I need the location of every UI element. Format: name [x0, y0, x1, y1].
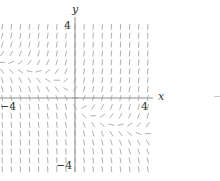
slope-segment: [129, 95, 130, 101]
slope-segment: [138, 59, 139, 65]
slope-segment: [29, 113, 30, 119]
slope-segment: [11, 131, 12, 137]
slope-segment: [111, 148, 112, 154]
slope-segment: [101, 104, 104, 109]
slope-segment: [82, 105, 87, 108]
slope-segment: [38, 131, 39, 137]
slope-segment: [146, 140, 149, 145]
slope-segment: [108, 124, 114, 126]
slope-segment: [129, 68, 130, 74]
slope-segment: [127, 132, 132, 136]
slope-segment: [102, 86, 103, 92]
slope-segment: [65, 59, 67, 65]
slope-segment: [47, 131, 48, 137]
slope-segment: [38, 33, 39, 39]
slope-segment: [138, 166, 139, 172]
slope-segment: [63, 88, 68, 91]
slope-segment: [29, 42, 30, 48]
slope-segment: [147, 113, 149, 119]
slope-segment: [129, 86, 130, 92]
slope-segment: [147, 166, 148, 172]
slope-segment: [20, 24, 21, 30]
slope-segment: [93, 148, 94, 154]
slope-segment: [83, 131, 85, 137]
slope-segment: [47, 42, 48, 48]
slope-segment: [148, 59, 149, 65]
slope-segment: [28, 51, 30, 57]
slope-segment: [10, 77, 12, 83]
slope-segment: [129, 104, 131, 110]
slope-segment: [146, 122, 149, 127]
slope-field-plot: [0, 0, 220, 181]
slope-segment: [100, 114, 105, 117]
slope-segment: [56, 104, 57, 110]
slope-segment: [129, 157, 130, 163]
slope-segment: [29, 24, 30, 30]
slope-segment: [45, 79, 50, 82]
slope-segment: [65, 104, 67, 110]
slope-segment: [56, 42, 57, 48]
x-tick-4: 4: [141, 101, 148, 112]
slope-segment: [84, 51, 85, 57]
slope-segment: [1, 42, 3, 48]
slope-segment: [102, 157, 103, 163]
slope-segment: [128, 113, 130, 118]
slope-segment: [2, 122, 3, 128]
slope-segment: [120, 77, 121, 83]
slope-segment: [37, 78, 41, 83]
slope-segment: [84, 77, 85, 83]
slope-segment: [20, 122, 21, 128]
slope-segment: [11, 113, 12, 119]
slope-segment: [137, 140, 140, 145]
slope-segment: [111, 68, 112, 74]
slope-segment: [102, 166, 103, 172]
slope-segment: [138, 77, 139, 83]
slope-segment: [111, 59, 112, 65]
slope-segment: [120, 86, 121, 92]
slope-segment: [147, 77, 148, 83]
slope-segment: [93, 68, 94, 74]
slope-segment: [2, 33, 3, 39]
slope-segment: [11, 122, 12, 128]
slope-segment: [20, 95, 21, 101]
slope-segment: [19, 77, 21, 82]
slope-segment: [82, 114, 87, 118]
slope-segment: [136, 133, 142, 135]
slope-segment: [56, 131, 57, 137]
adjacent-figure-fragment: [214, 96, 220, 97]
slope-segment: [83, 86, 85, 92]
slope-segment: [9, 69, 13, 73]
slope-segment: [29, 104, 30, 110]
slope-segment: [127, 123, 132, 126]
slope-segment: [57, 140, 58, 146]
slope-segment: [148, 68, 149, 74]
slope-segment: [120, 157, 121, 163]
slope-segment: [29, 33, 30, 39]
slope-segment: [102, 148, 103, 154]
slope-segment: [47, 122, 48, 128]
slope-segment: [38, 122, 39, 128]
slope-segment: [29, 122, 30, 128]
slope-segment: [110, 131, 113, 136]
slope-segment: [2, 24, 3, 30]
slope-segment: [38, 113, 39, 119]
slope-segment: [138, 104, 139, 110]
slope-segment: [55, 69, 58, 74]
slope-segment: [65, 122, 66, 128]
slope-segment: [111, 51, 112, 57]
slope-segment: [56, 51, 57, 57]
slope-segment: [29, 131, 30, 137]
slope-segment: [93, 86, 94, 92]
slope-segment: [1, 69, 4, 74]
slope-segment: [93, 140, 94, 146]
slope-segment: [75, 157, 76, 163]
slope-segment: [9, 61, 15, 63]
slope-segment: [10, 51, 13, 56]
slope-segment: [138, 86, 139, 92]
slope-segment: [111, 157, 112, 163]
slope-segment: [111, 140, 113, 146]
slope-segment: [93, 59, 94, 65]
slope-segment: [93, 77, 94, 83]
slope-segment: [2, 131, 3, 137]
slope-segment: [65, 113, 66, 119]
